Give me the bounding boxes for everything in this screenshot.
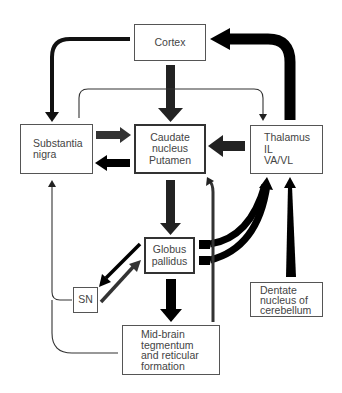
node-caudate-putamen: Caudate nucleus Putamen	[134, 124, 206, 174]
arrow-globus-pallidus-to-midbrain	[160, 279, 182, 322]
node-sn: SN	[73, 287, 98, 313]
arrow-midbrain-to-caudate	[206, 177, 214, 322]
node-cortex: Cortex	[134, 24, 206, 61]
arrow-sn-to-substantia-nigra	[48, 180, 72, 300]
node-midbrain: Mid-brain tegmentum and reticular format…	[122, 325, 220, 375]
node-substantia-nigra: Substantia nigra	[20, 124, 93, 174]
arrow-dentate-to-thalamus	[284, 177, 296, 277]
node-dentate: Dentate nucleus of cerebellum	[250, 282, 323, 317]
node-globus-pallidus: Globus pallidus	[144, 237, 195, 274]
arrow-caudate-to-substantia-nigra	[95, 155, 130, 171]
arrow-thalamus-to-caudate	[208, 135, 245, 157]
arrow-cortex-to-caudate	[158, 65, 183, 122]
arrow-thalamus-to-cortex	[210, 28, 290, 120]
arrow-globus-pallidus-to-thalamus	[199, 177, 273, 265]
arrow-substantia-nigra-to-caudate	[96, 127, 131, 143]
arrow-caudate-to-globus-pallidus	[160, 180, 181, 235]
arrow-cortex-to-substantia-nigra	[45, 39, 130, 122]
node-thalamus: Thalamus IL VA/VL	[250, 125, 323, 174]
